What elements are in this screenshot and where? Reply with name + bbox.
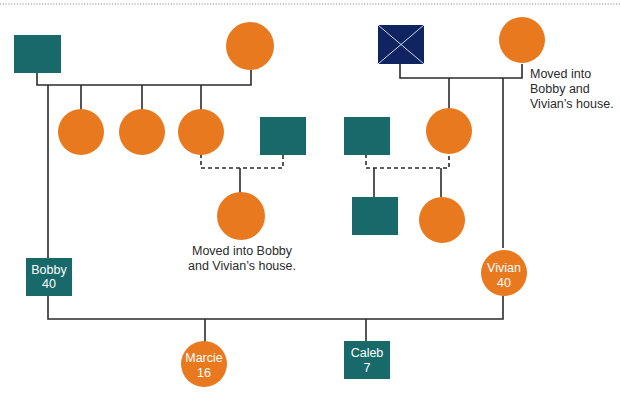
vivian-age: 40	[497, 276, 511, 290]
paternal-aunt-3-partner-square	[260, 117, 306, 155]
partnership-dashed-lines	[201, 154, 449, 168]
maternal-grandmother-note-line-2: Bobby and	[530, 82, 620, 97]
bobby-name: Bobby	[31, 263, 67, 277]
paternal-grandfather-square	[14, 35, 61, 73]
marcie-age: 16	[197, 366, 211, 380]
maternal-grandmother-note: Moved into Bobby and Vivian’s house.	[530, 67, 620, 112]
paternal-cousin-note-line-2: and Vivian’s house.	[184, 259, 300, 274]
paternal-aunt-2-circle	[119, 109, 165, 155]
caleb-name: Caleb	[351, 346, 384, 360]
paternal-cousin-note: Moved into Bobby and Vivian’s house.	[184, 244, 300, 274]
maternal-grandmother-note-line-1: Moved into	[530, 67, 620, 82]
marcie-name: Marcie	[185, 351, 223, 365]
maternal-cousin-male-square	[352, 197, 398, 235]
paternal-grandmother-circle	[226, 22, 274, 70]
paternal-aunt-3-circle	[178, 109, 224, 155]
paternal-cousin-circle	[217, 192, 265, 240]
maternal-aunt-circle	[426, 108, 472, 154]
bobby-age: 40	[42, 277, 56, 291]
paternal-aunt-1-circle	[58, 109, 104, 155]
maternal-grandmother-circle	[499, 17, 545, 63]
maternal-aunt-partner-square	[344, 117, 390, 155]
maternal-cousin-female-circle	[419, 197, 465, 243]
paternal-cousin-note-line-1: Moved into Bobby	[184, 244, 300, 259]
genogram-diagram: Bobby 40 Vivian 40 Marcie 16 Caleb 7	[0, 0, 620, 397]
maternal-grandmother-note-line-3: Vivian’s house.	[530, 97, 620, 112]
vivian-name: Vivian	[487, 261, 521, 275]
caleb-age: 7	[364, 361, 371, 375]
